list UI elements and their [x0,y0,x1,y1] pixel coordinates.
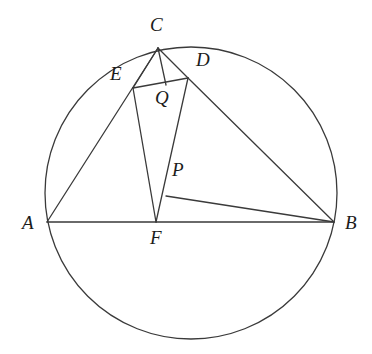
segment-DB [188,78,334,222]
circle-layer [45,47,337,339]
segment-CD [158,48,188,78]
point-label-a: A [22,213,34,232]
point-label-p: P [172,160,184,179]
point-label-c: C [150,15,163,34]
point-label-f: F [150,228,162,247]
point-label-q: Q [155,88,169,107]
geometry-canvas [0,0,372,354]
circumscribed-circle [45,47,337,339]
geometry-figure: ABCDEFPQ [0,0,372,354]
point-label-b: B [345,213,357,232]
point-label-d: D [196,50,210,69]
segment-PB [166,196,334,222]
segment-EF [133,88,156,222]
point-label-e: E [110,64,122,83]
segment-CQ [158,48,166,85]
segment-layer [47,48,334,222]
